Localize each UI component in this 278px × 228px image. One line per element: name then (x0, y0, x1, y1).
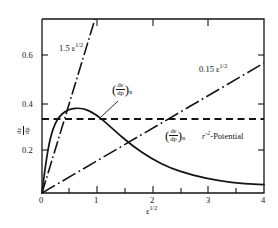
annotation-shallow-asymptote: 0.15 ε1/2 (199, 63, 227, 73)
annotation-curve-lower-denominator: dp (169, 136, 178, 143)
annotation-curve-upper: ( dε dp )n (112, 82, 132, 97)
x-tick-label-4: 4 (261, 196, 265, 205)
series-main-curve (42, 108, 264, 193)
x-tick-label-3: 3 (206, 196, 210, 205)
x-tick-label-0: 0 (39, 196, 43, 205)
y-axis-title-denominator: dp (24, 127, 31, 136)
annotation-potential-text: -Potential (210, 131, 243, 141)
x-tick-label-2: 2 (150, 196, 154, 205)
x-axis-ticks (69, 19, 236, 193)
y-tick-label-0-2: 0.2 (22, 146, 33, 155)
x-tick-label-1: 1 (94, 196, 98, 205)
figure-chart-de-dp: 0.6 0.4 0.2 0 1 2 3 4 ε1/2 dε dp 1.5 ε1/… (0, 0, 278, 228)
annotation-curve-upper-subscript: n (129, 89, 132, 95)
y-axis-title: dε dp (16, 127, 31, 136)
annotation-shallow-exponent: 1/2 (220, 63, 228, 69)
annotation-curve-lower-fraction: dε dp (169, 128, 178, 143)
label-leader-upper (101, 101, 118, 117)
chart-canvas (0, 0, 278, 228)
annotation-curve-upper-fraction: dε dp (116, 82, 125, 97)
y-tick-label-0-4: 0.4 (22, 100, 33, 109)
annotation-steep-asymptote: 1.5 ε1/2 (59, 42, 83, 52)
annotation-curve-upper-denominator: dp (116, 90, 125, 97)
annotation-steep-exponent: 1/2 (75, 42, 83, 48)
y-tick-label-0-6: 0.6 (22, 51, 33, 60)
y-axis-title-fraction: dε dp (16, 127, 31, 136)
annotation-curve-lower: ( dε dp )n (165, 128, 185, 143)
x-axis-title: ε1/2 (146, 205, 157, 215)
annotation-steep-coefficient: 1.5 (59, 43, 70, 53)
annotation-shallow-coefficient: 0.15 (199, 64, 214, 74)
annotation-r2-potential: r-2-Potential (202, 130, 243, 140)
annotation-curve-lower-subscript: n (182, 135, 185, 141)
x-axis-title-exponent: 1/2 (150, 205, 158, 211)
